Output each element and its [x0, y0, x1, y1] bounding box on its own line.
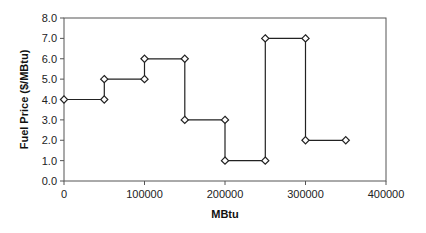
- diamond-marker: [60, 96, 67, 103]
- diamond-marker: [221, 116, 228, 123]
- x-tick-label: 200000: [207, 188, 244, 200]
- y-tick-label: 4.0: [42, 94, 57, 106]
- diamond-marker: [141, 76, 148, 83]
- y-tick-label: 1.0: [42, 155, 57, 167]
- x-tick-label: 400000: [368, 188, 405, 200]
- diamond-marker: [342, 137, 349, 144]
- x-tick-label: 300000: [287, 188, 324, 200]
- y-tick-label: 5.0: [42, 73, 57, 85]
- y-tick-label: 7.0: [42, 32, 57, 44]
- diamond-marker: [141, 55, 148, 62]
- diamond-marker: [101, 76, 108, 83]
- diamond-marker: [181, 55, 188, 62]
- x-axis-ticks: 0100000200000300000400000: [61, 181, 404, 200]
- y-tick-label: 0.0: [42, 175, 57, 187]
- x-tick-label: 0: [61, 188, 67, 200]
- y-tick-label: 3.0: [42, 114, 57, 126]
- diamond-marker: [262, 157, 269, 164]
- diamond-marker: [302, 35, 309, 42]
- diamond-marker: [221, 157, 228, 164]
- diamond-marker: [181, 116, 188, 123]
- y-tick-label: 6.0: [42, 53, 57, 65]
- diamond-marker: [101, 96, 108, 103]
- x-axis-title: MBtu: [211, 208, 239, 220]
- x-tick-label: 100000: [126, 188, 163, 200]
- diamond-marker: [302, 137, 309, 144]
- y-axis-title: Fuel Price ($/MBtu): [18, 49, 30, 149]
- y-tick-label: 8.0: [42, 12, 57, 24]
- y-tick-label: 2.0: [42, 134, 57, 146]
- diamond-marker: [262, 35, 269, 42]
- fuel-price-chart: 0.01.02.03.04.05.06.07.08.0 010000020000…: [0, 0, 426, 233]
